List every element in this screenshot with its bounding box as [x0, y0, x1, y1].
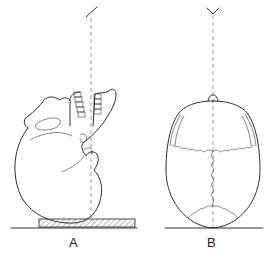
cranial-contour-a: [62, 156, 84, 172]
panel-b: [165, 8, 263, 228]
skull-diagram: [0, 0, 273, 258]
panel-label-b: B: [207, 235, 216, 250]
sagittal-suture-b: [211, 151, 214, 206]
temporal-line-a: [30, 133, 72, 140]
temporal-line-left-inner-b: [175, 116, 184, 146]
temporal-line-right-inner-b: [242, 116, 251, 146]
support-block-a: [39, 219, 135, 227]
orbit-detail-a: [35, 118, 60, 130]
view-direction-marker-a: [86, 7, 97, 17]
upper-teeth-a: [74, 92, 85, 117]
view-direction-marker-b: [207, 8, 219, 14]
panel-label-a: A: [69, 235, 78, 250]
panel-a: [11, 7, 137, 228]
